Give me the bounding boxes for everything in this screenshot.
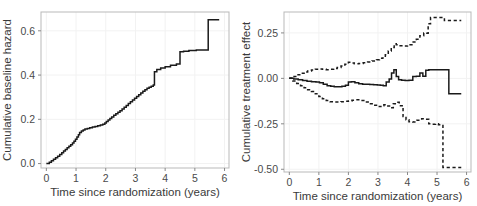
series-0-step-solid xyxy=(46,20,219,164)
x-tick-label: 5 xyxy=(434,176,440,188)
treatment-effect-chart: 01234560.250.00-0.25-0.50Time since rand… xyxy=(239,0,477,206)
y-tick-label: -0.25 xyxy=(254,118,278,130)
x-tick-label: 4 xyxy=(405,176,411,188)
x-tick-label: 6 xyxy=(464,176,470,188)
y-tick-label: 0.6 xyxy=(20,25,35,37)
x-tick-label: 2 xyxy=(103,172,109,184)
y-tick-label: 0.4 xyxy=(20,69,35,81)
baseline-hazard-chart: 01234560.00.20.40.6Time since randomizat… xyxy=(0,0,238,206)
y-tick-label: 0.25 xyxy=(258,27,279,39)
series-2-step-dashed xyxy=(289,78,461,167)
x-tick-label: 4 xyxy=(162,172,168,184)
gridlines xyxy=(41,12,229,168)
panel-treatment-effect: 01234560.250.00-0.25-0.50Time since rand… xyxy=(239,0,477,206)
y-tick-label: -0.50 xyxy=(254,163,278,175)
y-tick-label: 0.0 xyxy=(20,157,35,169)
x-tick-label: 2 xyxy=(345,176,351,188)
figure-two-panel-survival-plots: 01234560.00.20.40.6Time since randomizat… xyxy=(0,0,477,206)
x-axis-title: Time since randomization (years) xyxy=(50,186,220,198)
x-tick-label: 1 xyxy=(73,172,79,184)
x-tick-label: 5 xyxy=(192,172,198,184)
x-tick-label: 6 xyxy=(222,172,228,184)
x-tick-label: 3 xyxy=(375,176,381,188)
x-axis-title: Time since randomization (years) xyxy=(293,190,463,202)
y-axis-title: Cumulative baseline hazard xyxy=(1,19,13,161)
y-tick-label: 0.00 xyxy=(258,72,279,84)
x-tick-label: 3 xyxy=(133,172,139,184)
panel-baseline-hazard: 01234560.00.20.40.6Time since randomizat… xyxy=(0,0,238,206)
y-tick-label: 0.2 xyxy=(20,113,35,125)
x-tick-label: 0 xyxy=(286,176,292,188)
x-tick-label: 0 xyxy=(43,172,49,184)
x-tick-label: 1 xyxy=(316,176,322,188)
series-1-step-solid xyxy=(289,70,461,94)
y-axis-title: Cumulative treatment effect xyxy=(240,21,252,162)
